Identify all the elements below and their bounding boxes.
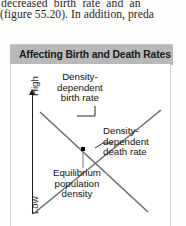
- birth-rate-leader-line: [77, 106, 95, 116]
- chart-panel: High Low Density- dependent birth rate D…: [10, 64, 171, 226]
- death-rate-label-line-1: Density-: [103, 126, 149, 137]
- equilibrium-label-line-3: density: [53, 189, 101, 200]
- birth-rate-label-line-3: birth rate: [57, 93, 103, 104]
- figure-title: Affecting Birth and Death Rates: [19, 49, 171, 60]
- equilibrium-marker: [81, 147, 85, 151]
- birth-rate-label-line-1: Density-: [57, 72, 103, 83]
- figure-header-bar: Affecting Birth and Death Rates: [10, 44, 173, 65]
- death-rate-label-line-3: death rate: [103, 147, 149, 158]
- equilibrium-annotation: Equilibrium population density: [53, 168, 101, 200]
- death-rate-annotation: Density- dependent death rate: [103, 126, 149, 158]
- birth-rate-annotation: Density- dependent birth rate: [57, 72, 103, 104]
- figure-block: Affecting Birth and Death Rates High Low…: [10, 44, 173, 226]
- prose-line-2: (figure 55.20). In addition, preda: [0, 9, 154, 21]
- equilibrium-label-line-1: Equilibrium: [53, 168, 101, 179]
